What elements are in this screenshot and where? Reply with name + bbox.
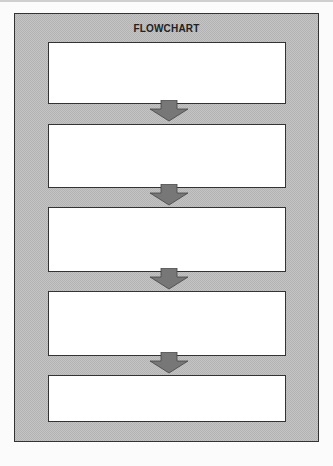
- flow-step-5: [48, 375, 286, 422]
- down-arrow-icon: [148, 100, 190, 122]
- flowchart-frame: FLOWCHART: [14, 13, 319, 442]
- flow-step-4: [48, 291, 286, 356]
- flow-step-1: [48, 42, 286, 104]
- flow-step-3: [48, 207, 286, 272]
- down-arrow-icon: [148, 184, 190, 206]
- down-arrow-icon: [148, 268, 190, 290]
- top-rule: [0, 0, 333, 2]
- flowchart-title: FLOWCHART: [15, 23, 318, 34]
- down-arrow-icon: [148, 352, 190, 374]
- flow-step-2: [48, 124, 286, 188]
